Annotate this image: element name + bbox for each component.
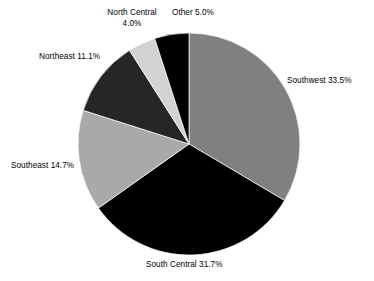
slice-label-northeast: Northeast 11.1%: [39, 52, 100, 63]
slice-label-south-central: South Central 31.7%: [146, 260, 223, 271]
slice-label-southwest: Southwest 33.5%: [287, 76, 351, 87]
slice-label-north-central-line2: 4.0%: [123, 19, 142, 28]
slice-label-north-central-line1: North Central: [107, 8, 156, 17]
slice-label-southeast: Southeast 14.7%: [11, 161, 74, 172]
pie-chart: Southwest 33.5% South Central 31.7% Sout…: [0, 0, 374, 281]
pie-slice-group: [78, 33, 300, 255]
slice-label-other: Other 5.0%: [172, 8, 214, 19]
slice-label-north-central: North Central 4.0%: [95, 8, 169, 29]
pie-chart-canvas: [0, 0, 374, 281]
